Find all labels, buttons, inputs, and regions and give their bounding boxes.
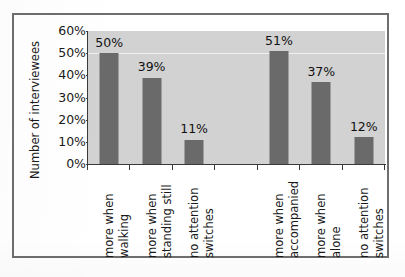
x-label-line-2: standing still bbox=[159, 172, 174, 258]
x-tick-mark bbox=[299, 165, 300, 170]
bar-value-label: 51% bbox=[265, 34, 293, 47]
x-label-line-1: no attention bbox=[187, 172, 202, 258]
y-tick-label: 60% bbox=[44, 25, 86, 37]
x-tick-mark bbox=[129, 165, 130, 170]
x-tick-mark bbox=[214, 165, 215, 170]
x-axis-tick-group bbox=[14, 165, 387, 171]
bar[interactable] bbox=[312, 82, 331, 164]
x-label-line-1: more when bbox=[314, 172, 329, 258]
bar-slot: 39% bbox=[130, 31, 172, 164]
x-tick-mark bbox=[87, 165, 88, 170]
y-tick-label: 20% bbox=[44, 114, 86, 126]
bar-slot: 51% bbox=[258, 31, 300, 164]
x-tick-mark bbox=[342, 165, 343, 170]
x-axis-label-more-when-alone: more when alone bbox=[314, 172, 344, 258]
bar-value-label: 37% bbox=[307, 65, 335, 78]
bar-value-label: 12% bbox=[350, 120, 378, 133]
x-label-line-2: switches bbox=[201, 172, 216, 258]
bar-value-label: 39% bbox=[138, 60, 166, 73]
x-label-line-2: alone bbox=[329, 172, 344, 258]
x-tick-mark bbox=[172, 165, 173, 170]
bar-value-label: 11% bbox=[180, 122, 208, 135]
y-axis-title: Number of interviewees bbox=[27, 40, 43, 180]
x-axis-label-no-attention-switches-2: no attention switches bbox=[357, 172, 387, 258]
x-label-line-1: no attention bbox=[357, 172, 372, 258]
bar-slot: 12% bbox=[343, 31, 385, 164]
x-axis-label-group: more when walking more when standing sti… bbox=[14, 172, 387, 258]
bar-slot-empty bbox=[215, 31, 257, 164]
x-label-line-1: more when bbox=[102, 172, 117, 258]
bar-slot: 11% bbox=[173, 31, 215, 164]
y-tick-label: 40% bbox=[44, 69, 86, 81]
bar-slot: 37% bbox=[300, 31, 342, 164]
bar[interactable] bbox=[100, 53, 119, 164]
bar-value-label: 50% bbox=[95, 36, 123, 49]
chart-frame: Number of interviewees 60% 50% 40% 30% 2… bbox=[12, 13, 389, 258]
plot-area: 50% 39% 11% 51% 37% 12% bbox=[88, 31, 385, 164]
x-axis-label-more-when-walking: more when walking bbox=[102, 172, 132, 258]
bar[interactable] bbox=[185, 140, 204, 164]
x-label-line-1: more when bbox=[272, 172, 287, 258]
x-tick-mark bbox=[384, 165, 385, 170]
x-label-line-2: switches bbox=[371, 172, 386, 258]
x-axis-label-no-attention-switches-1: no attention switches bbox=[187, 172, 217, 258]
x-axis-label-more-when-standing-still: more when standing still bbox=[145, 172, 175, 258]
x-label-line-1: more when bbox=[145, 172, 160, 258]
y-tick-label: 50% bbox=[44, 47, 86, 59]
bar-slot: 50% bbox=[88, 31, 130, 164]
x-label-line-2: walking bbox=[117, 172, 132, 258]
y-tick-label: 10% bbox=[44, 136, 86, 148]
y-tick-label: 30% bbox=[44, 92, 86, 104]
bar[interactable] bbox=[269, 51, 288, 164]
x-axis-label-more-when-accompanied: more when accompanied bbox=[272, 172, 302, 258]
bar[interactable] bbox=[354, 137, 373, 164]
x-label-line-2: accompanied bbox=[286, 172, 301, 258]
x-tick-mark bbox=[257, 165, 258, 170]
bar[interactable] bbox=[142, 78, 161, 165]
